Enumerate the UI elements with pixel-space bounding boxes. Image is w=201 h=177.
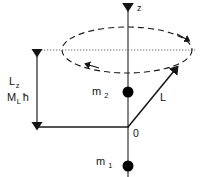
angular-momentum-vector-L bbox=[128, 71, 174, 127]
mass-1-subscript: 1 bbox=[108, 161, 112, 170]
vector-L-label: L bbox=[160, 92, 166, 103]
ml-subscript: L bbox=[17, 97, 21, 106]
precession-arrow-left-icon bbox=[89, 65, 99, 68]
lz-label: Lz bbox=[9, 76, 19, 87]
mass-2-label: m2 bbox=[92, 86, 108, 97]
mass-1-symbol: m bbox=[96, 155, 105, 167]
z-axis-label: z bbox=[137, 4, 142, 13]
ml-symbol: M bbox=[7, 91, 16, 103]
mass-1-dot bbox=[123, 161, 134, 172]
ml-hbar-label: MLħ bbox=[7, 92, 29, 103]
mass-2-symbol: m bbox=[92, 85, 101, 97]
mass-1-label: m1 bbox=[96, 156, 112, 167]
mass-2-subscript: 2 bbox=[104, 91, 108, 100]
hbar-symbol: ħ bbox=[23, 91, 29, 103]
mass-2-dot bbox=[123, 87, 134, 98]
precession-orbit-ellipse bbox=[62, 27, 192, 73]
lz-symbol: L bbox=[9, 75, 15, 87]
angular-momentum-figure: Lz MLħ m2 m1 z 0 L bbox=[0, 0, 201, 177]
lz-subscript: z bbox=[16, 81, 20, 90]
origin-label: 0 bbox=[133, 128, 139, 139]
